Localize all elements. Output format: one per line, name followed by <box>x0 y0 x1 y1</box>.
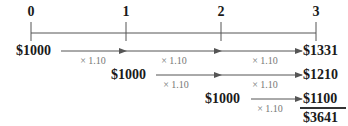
sum-rule <box>300 107 346 109</box>
row1-multiplier-3: × 1.10 <box>252 56 278 66</box>
row3-end-amount: $1100 <box>303 92 337 106</box>
row3-start-amount: $1000 <box>205 92 240 106</box>
total-amount: $3641 <box>303 111 338 125</box>
row1-multiplier-1: × 1.10 <box>80 56 106 66</box>
row2-multiplier-2: × 1.10 <box>252 80 278 90</box>
row1-multiplier-2: × 1.10 <box>161 56 187 66</box>
row2-multiplier-1: × 1.10 <box>163 80 189 90</box>
period-label-0: 0 <box>28 5 35 19</box>
period-label-3: 3 <box>313 5 320 19</box>
row3-multiplier-1: × 1.10 <box>257 104 283 114</box>
period-label-2: 2 <box>218 5 225 19</box>
row1-end-amount: $1331 <box>303 44 338 58</box>
row2-start-amount: $1000 <box>111 68 146 82</box>
row1-start-amount: $1000 <box>16 44 51 58</box>
period-label-1: 1 <box>123 5 130 19</box>
row2-end-amount: $1210 <box>303 68 338 82</box>
